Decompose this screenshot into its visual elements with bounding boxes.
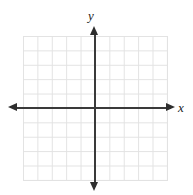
x-axis-right-arrow-icon: [166, 103, 175, 111]
y-axis-up-arrow-icon: [90, 26, 98, 35]
coordinate-plane-figure: y x: [0, 0, 193, 195]
y-axis-label: y: [88, 9, 94, 22]
x-axis-label: x: [178, 101, 184, 114]
y-axis-down-arrow-icon: [90, 182, 98, 191]
x-axis-left-arrow-icon: [8, 103, 17, 111]
x-axis-line: [14, 107, 171, 109]
y-axis-line: [94, 31, 96, 187]
